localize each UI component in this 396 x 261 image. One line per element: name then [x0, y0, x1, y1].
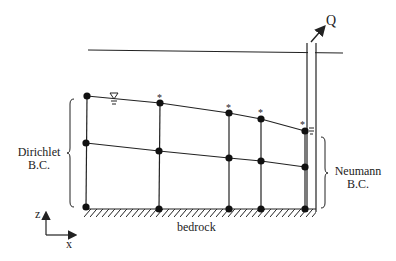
node	[257, 205, 264, 212]
well-water-level-icon	[309, 128, 314, 134]
water-table-line	[87, 96, 305, 131]
free-surface-marker: *	[157, 91, 162, 104]
axis-x-label: x	[66, 238, 72, 251]
node	[301, 163, 308, 170]
node	[82, 203, 89, 210]
grid-nodes	[82, 92, 308, 212]
axes-icon	[46, 213, 75, 235]
dirichlet-label-line2: B.C.	[14, 159, 64, 172]
node	[257, 157, 264, 164]
node	[225, 205, 232, 212]
discharge-arrow-icon	[311, 27, 324, 42]
node	[155, 147, 162, 154]
node	[225, 154, 232, 161]
free-surface-marker: *	[258, 106, 263, 119]
bedrock-label: bedrock	[177, 221, 216, 234]
bedrock-hatch	[84, 209, 316, 217]
axis-z-label: z	[35, 208, 40, 221]
node	[83, 92, 90, 99]
middle-row-line	[86, 143, 305, 167]
free-surface-marker: *	[300, 118, 305, 131]
node	[155, 205, 162, 212]
dirichlet-brace-icon	[67, 99, 74, 207]
ground-surface-line	[88, 50, 343, 53]
node	[82, 139, 89, 146]
discharge-label: Q	[326, 14, 336, 27]
neumann-brace-icon	[321, 137, 328, 208]
neumann-label: Neumann B.C.	[330, 165, 386, 191]
node	[301, 205, 308, 212]
grid-lines	[86, 96, 305, 209]
neumann-label-line2: B.C.	[330, 178, 386, 191]
free-surface-marker: *	[226, 101, 231, 114]
dirichlet-label: Dirichlet B.C.	[14, 146, 64, 172]
